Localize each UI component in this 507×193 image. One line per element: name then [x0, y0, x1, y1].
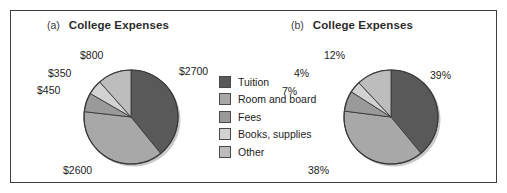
legend-swatch-tuition: [219, 76, 231, 88]
legend-swatch-room-and-board: [219, 93, 231, 105]
slice-label-tuition-b: 39%: [430, 69, 451, 81]
chart-title-a: (a)College Expenses: [47, 19, 169, 31]
slice-label-other-b: 12%: [324, 49, 345, 61]
slice-label-other-a: $800: [80, 49, 103, 61]
chart-title-b: (b)College Expenses: [291, 19, 413, 31]
pie-chart-a: [79, 64, 183, 168]
legend-swatch-other: [219, 146, 231, 158]
chart-panel-b: (b)College Expenses 39% 38% 7% 4% 12%: [254, 11, 497, 182]
pie-b-svg: [339, 64, 443, 168]
slice-label-books-supplies-a: $350: [48, 67, 71, 79]
slice-label-room-and-board-b: 38%: [308, 164, 329, 176]
chart-title-text-b: College Expenses: [313, 19, 413, 31]
pie-a-svg: [79, 64, 183, 168]
panel-letter-b: (b): [291, 19, 304, 31]
pie-chart-b: [339, 64, 443, 168]
chart-panel-a: (a)College Expenses $2700 $2600 $450 $35…: [11, 11, 254, 182]
panel-letter-a: (a): [47, 19, 60, 31]
figure-frame: (a)College Expenses $2700 $2600 $450 $35…: [10, 10, 497, 183]
slice-label-fees-a: $450: [37, 84, 60, 96]
legend-swatch-fees: [219, 111, 231, 123]
slice-label-books-supplies-b: 4%: [294, 67, 309, 79]
chart-title-text-a: College Expenses: [69, 19, 169, 31]
slice-label-fees-b: 7%: [282, 85, 297, 97]
legend-swatch-books-supplies: [219, 128, 231, 140]
slice-label-tuition-a: $2700: [179, 65, 208, 77]
slice-label-room-and-board-a: $2600: [63, 164, 92, 176]
